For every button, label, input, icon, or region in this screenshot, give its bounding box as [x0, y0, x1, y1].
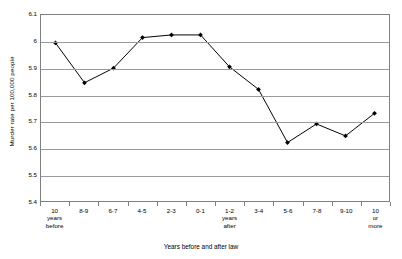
y-axis-tick-label: 5.7 [3, 118, 37, 124]
x-axis-tick-label-line: after [208, 222, 252, 229]
x-axis-tick-mark [273, 202, 274, 206]
x-axis-tick-mark [69, 202, 70, 206]
x-axis-tick-label-line: or [353, 214, 397, 221]
gridline [41, 122, 389, 123]
y-axis-tick-label: 5.8 [3, 92, 37, 98]
gridline [41, 69, 389, 70]
x-axis-tick-mark [244, 202, 245, 206]
data-point-marker [169, 33, 174, 38]
gridline [41, 176, 389, 177]
x-axis-tick-mark [215, 202, 216, 206]
x-axis-tick-mark [332, 202, 333, 206]
x-axis-tick-mark [128, 202, 129, 206]
plot-area [40, 14, 390, 202]
x-axis-tick-mark [303, 202, 304, 206]
x-axis-tick-label-line: years [208, 214, 252, 221]
x-axis-tick-label-line: more [353, 222, 397, 229]
x-axis-tick-label-line: before [33, 222, 77, 229]
y-axis-tick-label: 5.6 [3, 145, 37, 151]
x-axis-title: Years before and after law [0, 243, 402, 250]
x-axis-tick-mark [157, 202, 158, 206]
y-axis-tick-label: 5.4 [3, 199, 37, 205]
x-axis-tick-mark [390, 202, 391, 206]
x-axis-tick-mark [98, 202, 99, 206]
x-axis-tick-mark [40, 202, 41, 206]
x-axis-tick-label: 10ormore [353, 207, 397, 229]
y-axis-tick-label: 5.9 [3, 65, 37, 71]
x-axis-tick-mark [186, 202, 187, 206]
series-line [55, 35, 374, 143]
x-axis-tick-labels: 10yearsbefore8-96-74-52-30-11-2yearsafte… [0, 207, 402, 241]
data-series [41, 15, 389, 201]
gridline [41, 42, 389, 43]
y-axis-tick-label: 5.5 [3, 172, 37, 178]
gridline [41, 96, 389, 97]
gridline [41, 149, 389, 150]
x-axis-tick-mark [361, 202, 362, 206]
x-axis-tick-label-line: 10 [353, 207, 397, 214]
y-axis-tick-label: 6 [3, 38, 37, 44]
y-axis-tick-label: 6.1 [3, 11, 37, 17]
murder-rate-line-chart: Murder rate per 100,000 people 6.165.95.… [0, 0, 402, 259]
x-axis-tick-label-line: years [33, 214, 77, 221]
